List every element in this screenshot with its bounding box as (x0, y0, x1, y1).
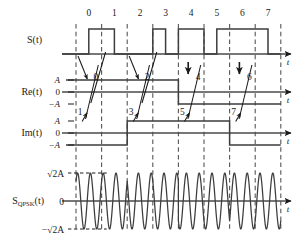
row-label-re: Re(t) (21, 86, 42, 98)
time-axis-st-t-label: t (287, 57, 290, 67)
waveform-re-ytick-1: 0 (56, 87, 61, 97)
row-label-im: Im(t) (21, 127, 42, 139)
qpsk-waveform-figure: 01234567S(t)Re(t)Im(t)SQPSK(t)ttttA0−AA0… (0, 0, 298, 245)
qpsk-label-sub: QPSK (18, 200, 35, 207)
annotation-digit-3: 3 (129, 107, 134, 117)
waveform-re-y-ticks: A0−A (48, 75, 74, 109)
waveform-im-y-ticks: A0−A (48, 116, 74, 150)
row-label-st: S(t) (27, 34, 42, 46)
symbol-index-ruler: 01234567 (86, 8, 270, 18)
figure-canvas: 01234567S(t)Re(t)Im(t)SQPSK(t)ttttA0−AA0… (0, 0, 298, 245)
time-axis-qpsk-t-label: t (287, 204, 290, 214)
qpsk-label-tail: (t) (35, 195, 44, 207)
annotation-digit-1: 1 (78, 107, 83, 117)
time-axis-st: t (62, 54, 291, 67)
time-axis-im: t (62, 133, 291, 146)
symbol-index-5: 5 (214, 8, 219, 18)
symbol-index-1: 1 (112, 8, 117, 18)
st-trace (62, 29, 281, 54)
waveform-im-ytick-0: A (54, 116, 61, 126)
qpsk-trace (76, 173, 281, 229)
waveform-im-ytick-1: 0 (56, 128, 61, 138)
annotation-digit-7: 7 (231, 107, 236, 117)
waveform-im-ytick-2: −A (48, 140, 60, 150)
symbol-index-7: 7 (266, 8, 271, 18)
annotation-arrow-2 (129, 56, 138, 79)
time-axis-re-t-label: t (287, 95, 290, 105)
time-axis-re: t (62, 92, 291, 105)
symbol-index-2: 2 (138, 8, 143, 18)
waveform-qpsk (76, 173, 281, 229)
symbol-index-0: 0 (86, 8, 91, 18)
row-labels: S(t)Re(t)Im(t)SQPSK(t) (12, 34, 44, 207)
bit-mapping-annotations: 01234567 (78, 52, 252, 122)
waveform-re-ytick-2: −A (48, 99, 60, 109)
waveform-st (62, 29, 281, 54)
time-axis-im-t-label: t (287, 136, 290, 146)
symbol-index-6: 6 (240, 8, 245, 18)
qpsk-ytick-zero: 0 (59, 197, 64, 207)
row-label-qpsk: SQPSK(t) (12, 195, 44, 207)
annotation-digit-5: 5 (180, 107, 185, 117)
symbol-index-4: 4 (189, 8, 194, 18)
symbol-index-3: 3 (163, 8, 168, 18)
qpsk-ytick-pos: √2A (47, 169, 64, 179)
annotation-arrow-0 (78, 56, 87, 79)
qpsk-ytick-neg: −√2A (42, 225, 64, 235)
waveform-re-ytick-0: A (54, 75, 61, 85)
